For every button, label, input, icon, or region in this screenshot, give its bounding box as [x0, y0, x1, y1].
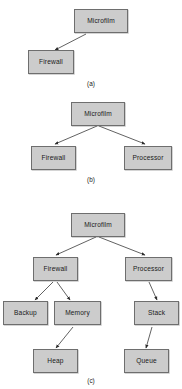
panel-b-edges	[55, 126, 145, 144]
panel-c-edges	[35, 237, 157, 348]
edge-processor-stack	[149, 282, 157, 300]
node-label: Stack	[148, 310, 165, 317]
node-backup-panel-c[interactable]: Backup	[3, 301, 48, 325]
edge-firewall-memory	[57, 282, 70, 300]
node-label: Heap	[47, 358, 63, 365]
node-label: Processor	[132, 155, 163, 162]
node-firewall-panel-a[interactable]: Firewall	[28, 50, 74, 74]
node-label: Firewall	[44, 266, 68, 273]
edge-microfilm-processor	[99, 126, 145, 144]
panel-caption-a: (a)	[77, 80, 105, 87]
node-label: Microfilm	[84, 222, 112, 229]
node-firewall-panel-b[interactable]: Firewall	[31, 146, 76, 170]
node-label: Firewall	[39, 59, 63, 66]
node-label: Processor	[133, 266, 164, 273]
panel-caption-c: (c)	[77, 377, 105, 384]
edge-stack-queue	[146, 327, 152, 348]
node-processor-panel-b[interactable]: Processor	[124, 146, 172, 170]
node-stack-panel-c[interactable]: Stack	[134, 301, 179, 325]
node-microfilm-panel-b[interactable]: Microfilm	[71, 102, 125, 126]
node-memory-panel-c[interactable]: Memory	[54, 301, 101, 325]
panel-caption-b: (b)	[77, 176, 105, 183]
node-microfilm-panel-c[interactable]: Microfilm	[71, 213, 125, 237]
node-firewall-panel-c[interactable]: Firewall	[33, 257, 78, 281]
edge-microfilm-processor	[99, 237, 145, 255]
node-heap-panel-c[interactable]: Heap	[33, 349, 78, 373]
edge-firewall-backup	[35, 282, 53, 300]
figure-root: Microfilm Firewall (a) Microfilm Firewal…	[0, 0, 182, 389]
node-label: Firewall	[42, 155, 66, 162]
node-label: Queue	[136, 358, 157, 365]
edge-memory-heap	[56, 327, 73, 348]
panel-a-edges	[55, 34, 86, 50]
node-label: Memory	[65, 310, 90, 317]
node-microfilm-panel-a[interactable]: Microfilm	[74, 9, 128, 33]
edge-microfilm-firewall	[55, 126, 97, 144]
node-label: Microfilm	[84, 111, 112, 118]
node-queue-panel-c[interactable]: Queue	[124, 349, 169, 373]
node-label: Microfilm	[87, 18, 115, 25]
node-processor-panel-c[interactable]: Processor	[125, 257, 172, 281]
node-label: Backup	[14, 310, 37, 317]
edge-microfilm-firewall	[56, 237, 96, 255]
edge-microfilm-firewall	[55, 34, 86, 50]
